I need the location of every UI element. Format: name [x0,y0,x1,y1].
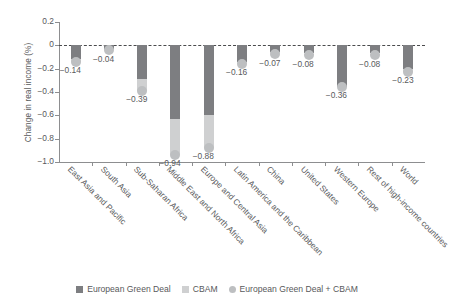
x-axis-line [59,162,425,163]
y-tick [55,22,59,23]
data-label: −0.23 [392,75,413,85]
legend-item[interactable]: CBAM [182,284,218,294]
y-tick-label: −0.6 [25,109,54,119]
y-tick-label: −0.4 [25,86,54,96]
data-label: −0.39 [126,94,147,104]
y-tick [55,69,59,70]
bar-group[interactable] [71,22,81,162]
bar-group[interactable] [104,22,114,162]
chart-legend: European Green DealCBAMEuropean Green De… [0,284,434,294]
legend-square-icon [182,286,189,293]
bar-segment-european-green-deal [137,45,147,79]
legend-item[interactable]: European Green Deal + CBAM [229,284,358,294]
bar-group[interactable] [304,22,314,162]
y-tick [55,162,59,163]
bar-group[interactable] [270,22,280,162]
legend-label: European Green Deal [87,284,171,294]
data-label: −0.08 [359,59,380,69]
bar-segment-european-green-deal [204,45,214,115]
y-axis-line [59,22,60,162]
x-axis-label: China [265,164,288,187]
data-label: −0.88 [193,151,214,161]
legend-square-icon [76,286,83,293]
bar-group[interactable] [370,22,380,162]
y-tick-label: −0.8 [25,133,54,143]
plot-area: 0.20−0.2−0.4−0.6−0.8−1.0 −0.14−0.04−0.39… [59,22,425,162]
x-axis-label: World [398,164,420,186]
data-label: −0.14 [60,65,81,75]
y-tick [55,92,59,93]
data-label: −0.07 [259,58,280,68]
legend-item[interactable]: European Green Deal [76,284,171,294]
legend-label: CBAM [193,284,218,294]
x-axis-label: Sub-Saharan Africa [132,164,190,222]
legend-circle-icon [229,286,236,293]
bar-segment-european-green-deal [170,45,180,119]
bar-group[interactable] [204,22,214,162]
x-axis-label: Europe and Central Asia [199,164,270,235]
bar-group[interactable] [237,22,247,162]
data-label: −0.16 [226,67,247,77]
data-label: −0.36 [326,90,347,100]
bar-segment-european-green-deal [337,45,347,87]
y-tick [55,45,59,46]
y-tick [55,139,59,140]
bar-group[interactable] [403,22,413,162]
legend-label: European Green Deal + CBAM [240,284,358,294]
y-tick-label: −1.0 [25,156,54,166]
x-axis-label: South Asia [99,164,134,199]
bar-segment-european-green-deal [403,45,413,68]
bar-group[interactable] [170,22,180,162]
y-tick-label: 0.2 [25,16,54,26]
x-axis-category-labels: East Asia and PacificSouth AsiaSub-Sahar… [59,164,425,274]
data-label: −0.08 [293,59,314,69]
y-tick-label: 0 [25,39,54,49]
y-tick [55,115,59,116]
bar-group[interactable] [137,22,147,162]
data-label: −0.04 [93,54,114,64]
x-axis-label: East Asia and Pacific [66,164,128,226]
y-tick-label: −0.2 [25,63,54,73]
